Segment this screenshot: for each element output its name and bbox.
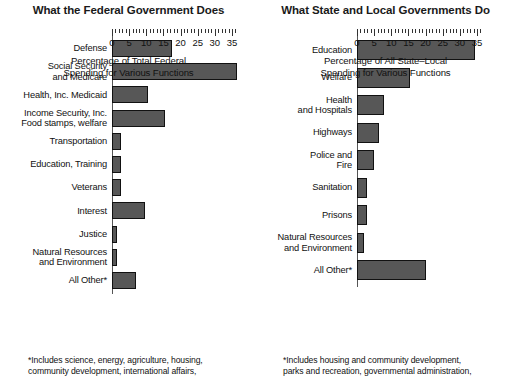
minor-tick (191, 29, 192, 33)
major-tick (477, 29, 478, 36)
minor-tick (463, 29, 464, 33)
bar-category-label: Interest (0, 206, 107, 217)
two-chart-figure: What the Federal Government Does Defense… (0, 0, 514, 378)
bar-segment (112, 133, 121, 150)
major-tick (163, 29, 164, 36)
minor-tick (115, 29, 116, 33)
bar-category-label: All Other* (0, 275, 107, 286)
minor-tick (153, 29, 154, 33)
minor-tick (398, 29, 399, 33)
page-title-state-local: What State and Local Governments Do (257, 3, 514, 18)
x-axis-title: Percentage of Total Federal Spending for… (0, 55, 257, 78)
bar-category-label: Veterans (0, 182, 107, 193)
minor-tick (218, 29, 219, 33)
minor-tick (388, 29, 389, 33)
minor-tick (474, 29, 475, 33)
state-local-plot-area: EducationWelfareHealth and HospitalsHigh… (257, 18, 514, 288)
bar-segment (357, 205, 367, 225)
bar-category-label: Natural Resources and Environment (0, 247, 107, 268)
minor-tick (439, 29, 440, 33)
bar-category-label: Prisons (232, 210, 352, 221)
minor-tick (205, 29, 206, 33)
minor-tick (143, 29, 144, 33)
bar-segment (357, 95, 384, 115)
minor-tick (208, 29, 209, 33)
minor-tick (177, 29, 178, 33)
bar-segment (112, 249, 117, 266)
minor-tick (446, 29, 447, 33)
bar-category-label: Health and Hospitals (232, 95, 352, 116)
bar-category-label: Health, Inc. Medicaid (0, 90, 107, 101)
minor-tick (384, 29, 385, 33)
bar-segment (357, 150, 374, 170)
minor-tick (150, 29, 151, 33)
minor-tick (360, 29, 361, 33)
minor-tick (432, 29, 433, 33)
minor-tick (122, 29, 123, 33)
minor-tick (422, 29, 423, 33)
minor-tick (133, 29, 134, 33)
major-tick (181, 29, 182, 36)
minor-tick (480, 29, 481, 33)
minor-tick (378, 29, 379, 33)
minor-tick (367, 29, 368, 33)
bar-category-label: Income Security, Inc. Food stamps, welfa… (0, 108, 107, 129)
major-tick (112, 29, 113, 36)
major-tick (443, 29, 444, 36)
minor-tick (167, 29, 168, 33)
minor-tick (235, 29, 236, 33)
minor-tick (136, 29, 137, 33)
minor-tick (402, 29, 403, 33)
bar-category-label: Sanitation (232, 182, 352, 193)
x-axis-title: Percentage of All State–Local Spending f… (257, 55, 514, 78)
minor-tick (119, 29, 120, 33)
bar-segment (112, 179, 121, 196)
minor-tick (381, 29, 382, 33)
minor-tick (364, 29, 365, 33)
minor-tick (160, 29, 161, 33)
minor-tick (436, 29, 437, 33)
bar-category-label: Natural Resources and Environment (232, 232, 352, 253)
minor-tick (371, 29, 372, 33)
minor-tick (184, 29, 185, 33)
minor-tick (187, 29, 188, 33)
major-tick (146, 29, 147, 36)
page-title-federal: What the Federal Government Does (0, 3, 257, 18)
bar-segment (112, 272, 136, 289)
minor-tick (229, 29, 230, 33)
major-tick (460, 29, 461, 36)
state-local-spending-chart-panel: What State and Local Governments Do Educ… (257, 0, 514, 378)
bar-segment (357, 178, 367, 198)
minor-tick (429, 29, 430, 33)
minor-tick (211, 29, 212, 33)
major-tick (357, 29, 358, 36)
minor-tick (126, 29, 127, 33)
x-tick-label: 35 (465, 37, 489, 48)
minor-tick (222, 29, 223, 33)
minor-tick (415, 29, 416, 33)
minor-tick (470, 29, 471, 33)
minor-tick (467, 29, 468, 33)
bar-segment (112, 156, 121, 173)
federal-spending-chart-panel: What the Federal Government Does Defense… (0, 0, 257, 378)
major-tick (232, 29, 233, 36)
minor-tick (225, 29, 226, 33)
minor-tick (405, 29, 406, 33)
bar-category-label: Police and Fire (232, 150, 352, 171)
minor-tick (194, 29, 195, 33)
bar-segment (357, 123, 379, 143)
minor-tick (419, 29, 420, 33)
bar-segment (112, 86, 148, 103)
major-tick (391, 29, 392, 36)
minor-tick (450, 29, 451, 33)
major-tick (374, 29, 375, 36)
bar-category-label: Education (232, 45, 352, 56)
federal-plot-area: DefenseSocial Security and MedicareHealt… (0, 18, 257, 288)
minor-tick (412, 29, 413, 33)
major-tick (129, 29, 130, 36)
state-local-footnote: *Includes housing and community developm… (283, 355, 508, 376)
bar-segment (112, 110, 165, 127)
bar-category-label: Education, Training (0, 159, 107, 170)
bar-segment (112, 226, 117, 243)
major-tick (408, 29, 409, 36)
